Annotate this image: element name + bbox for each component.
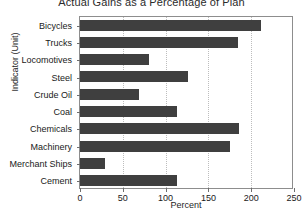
bar-row (80, 69, 294, 86)
bar (80, 71, 188, 82)
y-axis-tick (77, 78, 80, 79)
y-axis-tick-label: Steel (0, 73, 72, 83)
y-axis-tick (77, 147, 80, 148)
y-axis-tick (77, 26, 80, 27)
bar (80, 123, 239, 134)
bar-row (80, 34, 294, 51)
x-axis-tick (166, 188, 167, 192)
bar-row (80, 138, 294, 155)
bar-row (80, 121, 294, 138)
y-axis-tick (77, 60, 80, 61)
x-axis-tick (251, 188, 252, 192)
x-axis-tick (208, 188, 209, 192)
y-axis-tick-label: Chemicals (0, 124, 72, 134)
chart-title: Actual Gains as a Percentage of Plan (0, 0, 303, 8)
y-axis-tick-label: Bicycles (0, 21, 72, 31)
bar-row (80, 52, 294, 69)
y-axis-tick-label: Machinery (0, 142, 72, 152)
bar (80, 54, 149, 65)
plot-area: 050100150200250 BicyclesTrucksLocomotive… (79, 16, 293, 189)
bar-row (80, 104, 294, 121)
bar-row (80, 17, 294, 34)
bar (80, 141, 230, 152)
y-axis-tick-label: Trucks (0, 38, 72, 48)
bar (80, 37, 238, 48)
bar-row (80, 173, 294, 190)
x-axis-tick (294, 188, 295, 192)
bar-row (80, 86, 294, 103)
x-axis-tick (80, 188, 81, 192)
bar (80, 89, 139, 100)
y-axis-tick (77, 43, 80, 44)
bar-row (80, 155, 294, 172)
bar (80, 20, 261, 31)
y-axis-tick-label: Crude Oil (0, 90, 72, 100)
bar (80, 158, 105, 169)
y-axis-tick (77, 95, 80, 96)
x-axis-title: Percent (79, 200, 293, 210)
y-axis-tick-label: Locomotives (0, 55, 72, 65)
y-axis-tick (77, 112, 80, 113)
y-axis-tick-label: Cement (0, 176, 72, 186)
y-axis-tick-label: Merchant Ships (0, 159, 72, 169)
y-axis-tick (77, 181, 80, 182)
x-axis-tick (123, 188, 124, 192)
bar-chart: Actual Gains as a Percentage of Plan Ind… (0, 0, 303, 215)
y-axis-tick (77, 164, 80, 165)
bar (80, 106, 177, 117)
y-axis-tick (77, 129, 80, 130)
y-axis-tick-label: Coal (0, 107, 72, 117)
bar (80, 175, 177, 186)
